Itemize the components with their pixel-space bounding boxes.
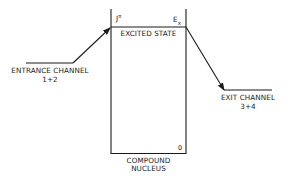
exit-channel-particles: 3+4 — [240, 102, 256, 111]
spin-parity-label: Jπ — [115, 13, 121, 23]
compound-nucleus-label-line2: NUCLEUS — [131, 164, 166, 173]
entrance-channel-particles: 1+2 — [42, 75, 57, 84]
compound-nucleus-diagram: Jπ Ex EXCITED STATE ENTRANCE CHANNEL 1+2… — [0, 0, 290, 179]
excitation-energy-label: Ex — [173, 15, 182, 26]
exit-arrow — [186, 27, 224, 90]
entrance-arrow — [73, 28, 110, 63]
exit-channel-label: EXIT CHANNEL — [221, 93, 275, 102]
ground-level-label: 0 — [178, 144, 182, 152]
excited-state-label: EXCITED STATE — [121, 29, 177, 38]
entrance-channel-label: ENTRANCE CHANNEL — [11, 66, 88, 75]
